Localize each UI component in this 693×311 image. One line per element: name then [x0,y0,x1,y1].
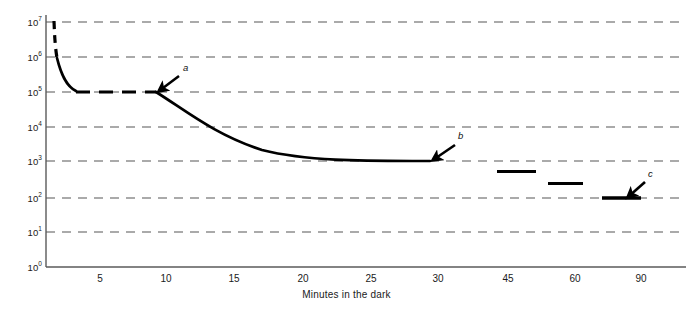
x-tick-label: 90 [635,273,646,284]
y-tick-label: 103 [28,156,43,167]
y-tick-label: 100 [28,262,43,273]
x-axis-title: Minutes in the dark [0,289,693,300]
x-tick-label: 60 [569,273,580,284]
plot-area [0,0,693,311]
series-cone-decay-solid [57,58,76,91]
y-tick-label: 101 [28,227,43,238]
y-tick-label: 105 [28,87,43,98]
x-tick-label: 25 [365,273,376,284]
gridlines [46,22,686,232]
annotation-arrow-a [159,76,179,91]
y-tick-label: 104 [28,122,43,133]
y-tick-label: 102 [28,193,43,204]
chart-figure: 107 106 105 104 103 102 101 100 [0,0,693,311]
series-initial-dashed-drop [54,21,57,58]
y-axis-tick-labels: 107 106 105 104 103 102 101 100 [0,0,42,311]
y-tick-label: 106 [28,52,43,63]
annotation-label-a: a [183,62,188,73]
x-tick-label: 10 [160,273,171,284]
annotation-arrow-c [628,182,645,197]
x-tick-label: 20 [297,273,308,284]
annotation-arrow-b [433,145,455,160]
annotation-arrows [159,76,645,197]
x-tick-label: 15 [228,273,239,284]
annotation-label-c: c [648,168,653,179]
x-tick-label: 5 [97,273,103,284]
annotation-label-b: b [458,130,463,141]
x-tick-label: 30 [432,273,443,284]
x-tick-label: 45 [502,273,513,284]
y-tick-label: 107 [28,17,43,28]
